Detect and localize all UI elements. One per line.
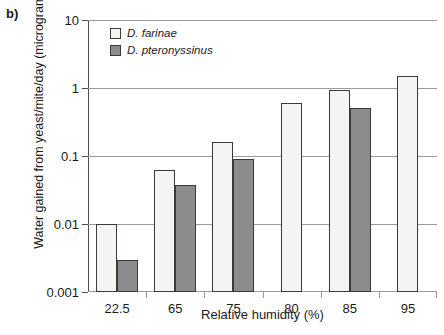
- y-tick-mark: [82, 88, 88, 89]
- x-tick-mark: [263, 292, 264, 298]
- x-tick-mark: [204, 292, 205, 298]
- x-tick-mark: [436, 292, 437, 298]
- y-tick-label: 10: [65, 13, 79, 28]
- y-tick-mark: [82, 20, 88, 21]
- bar: [154, 170, 175, 292]
- bar: [281, 103, 302, 292]
- gridline: [88, 88, 437, 89]
- bar: [212, 142, 233, 292]
- bar: [350, 108, 371, 292]
- legend: D. farinaeD. pteronyssinus: [110, 27, 213, 61]
- panel-label: b): [6, 6, 18, 21]
- gridline: [88, 224, 437, 225]
- bar: [175, 185, 196, 292]
- bar: [329, 90, 350, 292]
- x-tick-mark: [379, 292, 380, 298]
- legend-label: D. pteronyssinus: [127, 44, 213, 56]
- x-tick-mark: [146, 292, 147, 298]
- y-tick-label: 0.001: [46, 285, 79, 300]
- y-tick-label: 1: [72, 81, 79, 96]
- bar: [233, 159, 254, 292]
- y-axis-title: Water gained from yeast/mite/day (microg…: [32, 0, 46, 262]
- bar: [117, 260, 138, 292]
- y-tick-mark: [82, 292, 88, 293]
- gridline: [88, 20, 437, 21]
- gridline: [88, 156, 437, 157]
- x-tick-mark: [321, 292, 322, 298]
- bar: [397, 76, 418, 292]
- figure-panel-b: b) Water gained from yeast/mite/day (mic…: [0, 0, 444, 335]
- legend-swatch: [110, 45, 121, 56]
- y-tick-mark: [82, 224, 88, 225]
- bar: [96, 224, 117, 292]
- legend-label: D. farinae: [127, 27, 177, 39]
- y-tick-label: 0.01: [54, 217, 79, 232]
- legend-item: D. pteronyssinus: [110, 44, 213, 56]
- legend-swatch: [110, 28, 121, 39]
- y-tick-mark: [82, 156, 88, 157]
- y-tick-label: 0.1: [61, 149, 79, 164]
- x-axis-title: Relative humidity (%): [88, 307, 437, 322]
- legend-item: D. farinae: [110, 27, 213, 39]
